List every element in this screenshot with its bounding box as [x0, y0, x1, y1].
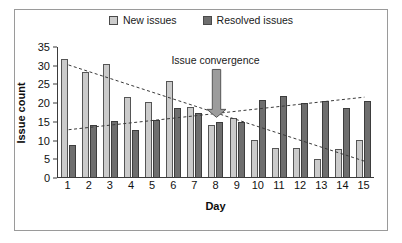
bar-new-day-12: [293, 148, 300, 177]
x-axis-tick-label: 3: [99, 180, 120, 191]
bar-group-day-6: [163, 47, 184, 177]
bar-new-day-4: [124, 97, 131, 177]
y-axis-tick-label: 35: [38, 42, 50, 53]
x-axis-tick-label: 2: [78, 180, 99, 191]
x-axis-tick-label: 13: [311, 180, 332, 191]
bar-resolved-day-14: [343, 108, 350, 177]
x-axis-tick-label: 10: [247, 180, 268, 191]
x-axis-tick-label: 12: [290, 180, 311, 191]
y-axis-tick-label: 0: [44, 173, 50, 184]
x-axis-tick-label: 7: [184, 180, 205, 191]
x-axis-tick-label: 11: [268, 180, 289, 191]
x-axis-ticks: 123456789101112131415: [57, 180, 374, 191]
bar-new-day-3: [103, 64, 110, 177]
bar-resolved-day-4: [132, 130, 139, 177]
chart-figure: New issues Resolved issues Issue count 0…: [0, 0, 402, 243]
x-axis-tick-label: 5: [142, 180, 163, 191]
bar-new-day-10: [251, 140, 258, 177]
bar-new-day-7: [187, 107, 194, 177]
y-axis-tick-label: 30: [38, 60, 50, 71]
bar-new-day-2: [82, 72, 89, 177]
x-axis-tick-label: 14: [332, 180, 353, 191]
bar-new-day-9: [230, 118, 237, 177]
bar-groups: [58, 47, 374, 177]
bar-new-day-6: [166, 81, 173, 177]
y-axis-tick-label: 5: [44, 154, 50, 165]
bar-group-day-14: [332, 47, 353, 177]
bar-group-day-8: [205, 47, 226, 177]
y-axis-tick-label: 10: [38, 135, 50, 146]
plot-area: [57, 47, 374, 178]
y-axis-ticks: 05101520253035: [0, 47, 57, 178]
bar-new-day-13: [314, 159, 321, 177]
bar-resolved-day-11: [280, 96, 287, 177]
bar-new-day-5: [145, 102, 152, 177]
bar-resolved-day-8: [216, 122, 223, 177]
bar-resolved-day-7: [195, 113, 202, 177]
x-axis-tick-label: 1: [57, 180, 78, 191]
bar-new-day-11: [272, 148, 279, 177]
y-axis-tick-label: 15: [38, 116, 50, 127]
bar-group-day-4: [121, 47, 142, 177]
bar-new-day-14: [335, 149, 342, 177]
x-axis-tick-label: 8: [205, 180, 226, 191]
bar-group-day-1: [58, 47, 79, 177]
bar-resolved-day-12: [301, 103, 308, 177]
bar-resolved-day-15: [364, 101, 371, 177]
bar-new-day-8: [208, 125, 215, 177]
annotation-label: Issue convergence: [171, 55, 259, 66]
bar-resolved-day-3: [111, 121, 118, 177]
bar-resolved-day-9: [238, 122, 245, 177]
bar-group-day-11: [269, 47, 290, 177]
bar-group-day-5: [142, 47, 163, 177]
bar-group-day-10: [248, 47, 269, 177]
bar-group-day-13: [311, 47, 332, 177]
bar-resolved-day-5: [153, 120, 160, 177]
x-axis-tick-label: 4: [120, 180, 141, 191]
bar-group-day-12: [290, 47, 311, 177]
x-axis-tick-label: 9: [226, 180, 247, 191]
bar-group-day-2: [79, 47, 100, 177]
x-axis-tick-label: 6: [163, 180, 184, 191]
bar-group-day-15: [353, 47, 374, 177]
x-axis-tick-label: 15: [353, 180, 374, 191]
bar-new-day-15: [356, 140, 363, 177]
bar-resolved-day-13: [322, 101, 329, 177]
x-axis-title: Day: [57, 200, 374, 212]
bar-resolved-day-2: [90, 125, 97, 177]
bar-resolved-day-1: [69, 145, 76, 177]
bar-new-day-1: [61, 59, 68, 177]
bar-resolved-day-10: [259, 100, 266, 177]
bar-resolved-day-6: [174, 108, 181, 177]
y-axis-tick-label: 20: [38, 98, 50, 109]
bar-group-day-3: [100, 47, 121, 177]
bar-group-day-7: [184, 47, 205, 177]
bar-group-day-9: [227, 47, 248, 177]
y-axis-tick-label: 25: [38, 79, 50, 90]
